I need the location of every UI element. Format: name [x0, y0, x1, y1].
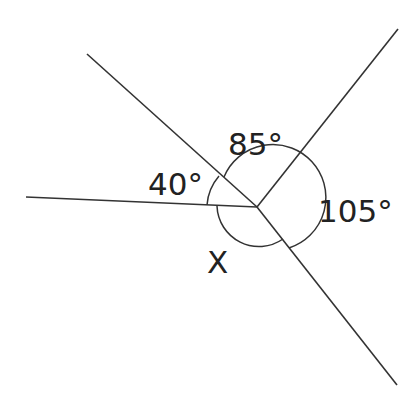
label-40: 40°	[148, 166, 203, 202]
ray-upper-right	[257, 29, 398, 207]
label-105: 105°	[318, 193, 393, 229]
label-85: 85°	[228, 126, 283, 162]
arc-40	[207, 176, 219, 205]
ray-left	[26, 197, 257, 207]
ray-lower-right	[257, 207, 397, 385]
angle-diagram: 40° 85° 105° X	[0, 0, 418, 400]
label-x: X	[207, 244, 228, 280]
